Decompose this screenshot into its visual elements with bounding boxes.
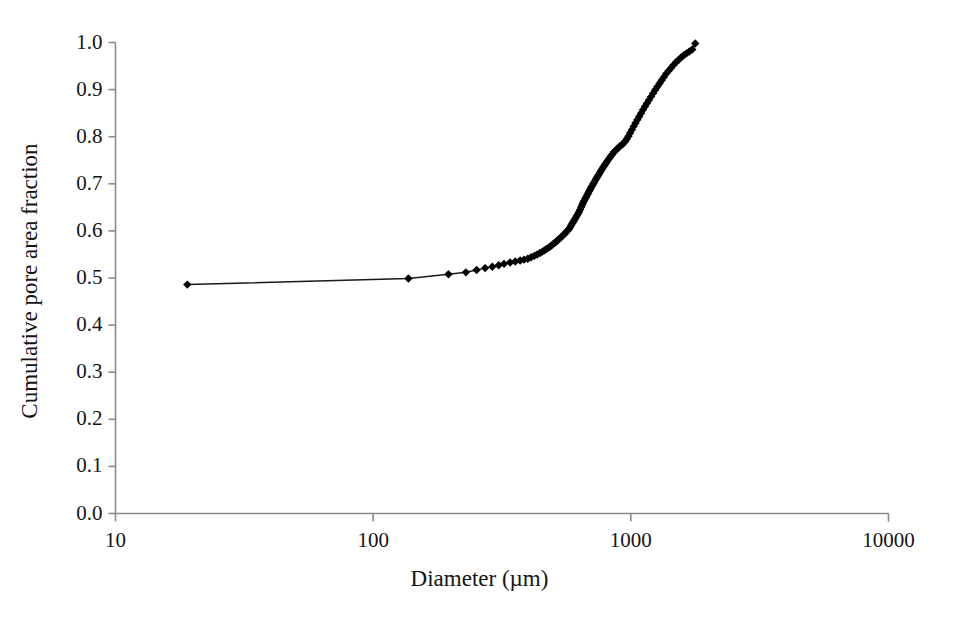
- data-point-marker: [404, 274, 412, 282]
- y-axis-tick-label: 0.1: [57, 455, 103, 476]
- chart-figure: 0.00.10.20.30.40.50.60.70.80.91.0 101001…: [0, 0, 959, 634]
- x-axis-tick-label: 10: [105, 530, 126, 551]
- data-point-marker: [462, 268, 470, 276]
- x-axis-ticks: [116, 514, 889, 522]
- y-axis-tick-label: 0.7: [57, 173, 103, 194]
- x-axis-tick-label: 10000: [862, 530, 915, 551]
- x-axis-title: Diameter (µm): [0, 566, 959, 592]
- y-axis-tick-label: 1.0: [57, 32, 103, 53]
- y-axis-ticks: [109, 43, 116, 514]
- y-axis-tick-label: 0.9: [57, 79, 103, 100]
- data-point-marker: [183, 280, 191, 288]
- y-axis-tick-label: 0.4: [57, 314, 103, 335]
- data-point-marker: [488, 262, 496, 270]
- x-axis-tick-label: 100: [357, 530, 389, 551]
- chart-plot-area: [0, 0, 959, 634]
- y-axis-tick-label: 0.6: [57, 220, 103, 241]
- y-axis-title: Cumulative pore area fraction: [17, 66, 43, 496]
- y-axis-tick-label: 0.2: [57, 408, 103, 429]
- data-point-marker: [481, 264, 489, 272]
- data-point-marker: [444, 270, 452, 278]
- y-axis-tick-label: 0.3: [57, 361, 103, 382]
- data-series-markers: [183, 39, 699, 289]
- y-axis-tick-label: 0.5: [57, 267, 103, 288]
- x-axis-tick-label: 1000: [610, 530, 652, 551]
- y-axis-tick-label: 0.8: [57, 126, 103, 147]
- y-axis-title-container: Cumulative pore area fraction: [0, 0, 60, 560]
- data-series-line: [187, 43, 695, 284]
- y-axis-tick-label: 0.0: [57, 503, 103, 524]
- data-point-marker: [472, 266, 480, 274]
